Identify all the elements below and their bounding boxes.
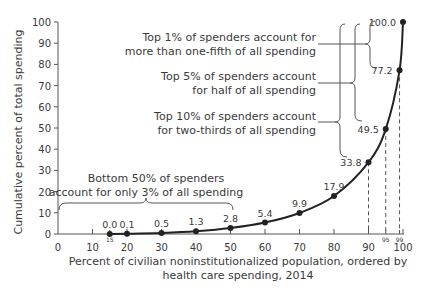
data-point: [159, 230, 165, 236]
data-label: 2.8: [223, 213, 238, 224]
data-point: [366, 159, 372, 165]
lorenz-chart: 0102030405060708090100 01020304050607080…: [0, 0, 431, 296]
bottom50-text-line1: Bottom 50% of spenders: [88, 172, 225, 185]
y-tick-label: 50: [38, 123, 51, 134]
data-point: [297, 210, 303, 216]
data-label: 77.2: [371, 65, 392, 76]
data-label: 1.3: [188, 216, 203, 227]
data-label: 0.0: [102, 219, 117, 230]
x-tick-label: 50: [224, 242, 237, 253]
x-tick-label: 10: [86, 242, 99, 253]
bottom50-text-line2: account for only 3% of all spending: [49, 186, 244, 199]
x-tick-label: 20: [121, 242, 134, 253]
top10-text-line2: for two-thirds of all spending: [157, 124, 316, 137]
x-tick-label: 70: [293, 242, 306, 253]
top1-text-line2: more than one-fifth of all spending: [125, 45, 316, 58]
x-tick-label: 80: [328, 242, 341, 253]
data-point: [331, 193, 337, 199]
y-tick-label: 90: [38, 38, 51, 49]
data-label: 0.5: [154, 218, 169, 229]
data-label: 0.1: [119, 219, 134, 230]
x-tick-label: 90: [362, 242, 375, 253]
x-minor-tick-label: 99: [396, 236, 404, 243]
y-tick-label: 30: [38, 165, 51, 176]
x-tick-label: 30: [155, 242, 168, 253]
data-point: [383, 126, 389, 132]
data-point: [124, 231, 130, 237]
y-tick-label: 100: [32, 17, 51, 28]
data-point: [193, 228, 199, 234]
y-tick-label: 40: [38, 144, 51, 155]
x-tick-label: 60: [259, 242, 272, 253]
annotation-texts: Top 1% of spenders account for more than…: [49, 31, 317, 199]
data-label: 33.8: [340, 157, 361, 168]
x-tick-label: 40: [190, 242, 203, 253]
x-axis-label-line1: Percent of civilian noninstitutionalized…: [69, 255, 408, 268]
data-point: [228, 225, 234, 231]
x-tick-label: 100: [393, 242, 412, 253]
x-minor-tick-label: 95: [382, 236, 390, 243]
y-tick-label: 70: [38, 81, 51, 92]
data-point: [397, 67, 403, 73]
y-tick-label: 80: [38, 59, 51, 70]
x-tick-label: 0: [55, 242, 61, 253]
data-point: [262, 220, 268, 226]
top5-text-line2: for half of all spending: [192, 84, 316, 97]
data-label: 17.9: [323, 181, 344, 192]
data-label: 9.9: [292, 198, 307, 209]
y-tick-label: 60: [38, 102, 51, 113]
top1-text-line1: Top 1% of spenders account for: [141, 31, 316, 44]
data-label: 5.4: [257, 208, 272, 219]
x-minor-tick-label: 15: [106, 236, 114, 243]
top1-brace: [365, 21, 376, 68]
bottom50-brace: [59, 198, 233, 210]
data-label: 100.0: [369, 17, 396, 28]
data-label: 49.5: [358, 124, 379, 135]
y-axis-label: Cumulative percent of total spending: [12, 29, 25, 234]
data-point: [107, 231, 113, 237]
y-tick-label: 10: [38, 208, 51, 219]
top5-brace: [350, 24, 362, 121]
top5-text-line1: Top 5% of spenders account: [160, 70, 317, 83]
top10-text-line1: Top 10% of spenders account: [153, 110, 317, 123]
y-tick-label: 0: [45, 229, 51, 240]
x-axis-label-line2: health care spending, 2014: [162, 269, 313, 282]
y-axis-ticks: 0102030405060708090100: [32, 17, 58, 240]
data-point: [400, 19, 406, 25]
